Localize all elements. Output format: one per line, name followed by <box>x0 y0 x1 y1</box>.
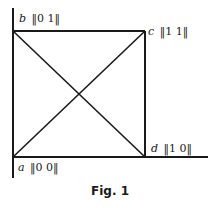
figure-caption: Fig. 1 <box>0 184 220 198</box>
vertex-c-label: c ‖1 1‖ <box>148 25 188 39</box>
square-diagram: b ‖0 1‖ c ‖1 1‖ d ‖1 0‖ a ‖0 0‖ <box>0 0 220 208</box>
vertex-d-label: d ‖1 0‖ <box>151 142 192 156</box>
vertex-b-label: b ‖0 1‖ <box>19 12 60 26</box>
vertex-a-label: a ‖0 0‖ <box>18 161 59 175</box>
